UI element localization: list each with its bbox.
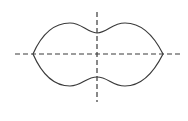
peanut-shape-diagram bbox=[0, 0, 188, 121]
diagram-canvas bbox=[0, 0, 188, 121]
